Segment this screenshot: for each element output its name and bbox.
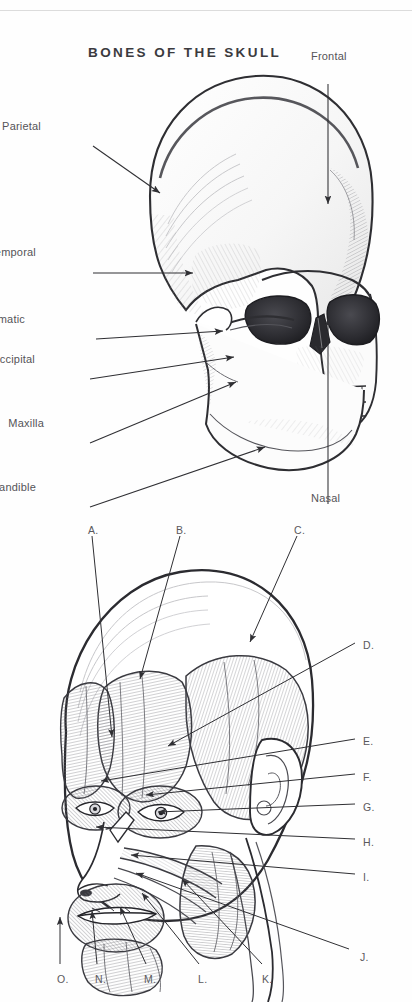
figure-bones-of-the-skull: BONES OF THE SKULL Frontal Parietal Temp… — [0, 18, 412, 518]
label-maxilla: Maxilla — [8, 417, 44, 429]
ear — [250, 739, 302, 835]
skull-illustration — [0, 18, 412, 518]
label-parietal: Parietal — [2, 120, 41, 132]
leader-parietal — [93, 146, 160, 193]
textbook-page: BONES OF THE SKULL Frontal Parietal Temp… — [0, 0, 412, 1002]
key-label-d: D. — [363, 639, 374, 651]
key-label-o: O. — [57, 973, 69, 985]
key-label-i: I. — [363, 871, 369, 883]
key-label-c: C. — [294, 524, 305, 536]
label-occipital: Occipital — [0, 353, 35, 365]
figure-title: BONES OF THE SKULL — [88, 45, 281, 60]
key-label-e: E. — [363, 735, 374, 747]
key-label-a: A. — [88, 524, 99, 536]
key-label-h: H. — [363, 836, 374, 848]
leader-mandible — [90, 447, 265, 507]
key-label-b: B. — [176, 524, 187, 536]
page-top-rule — [0, 10, 412, 11]
figure-facial-muscles: A. B. C. D. E. F. G. H. I. J. K. L. M. N… — [0, 512, 412, 1002]
key-label-j: J. — [360, 951, 369, 963]
label-frontal: Frontal — [311, 50, 347, 62]
key-label-f: F. — [363, 771, 372, 783]
muscle-depressors-and-mentalis — [82, 939, 163, 995]
label-mandible: Mandible — [0, 481, 36, 493]
key-label-m: M. — [144, 973, 156, 985]
label-zygomatic: Zygomatic — [0, 313, 25, 325]
key-label-l: L. — [198, 973, 207, 985]
facial-muscle-illustration — [0, 512, 412, 1002]
key-label-g: G. — [363, 801, 375, 813]
label-temporal: Temporal — [0, 246, 36, 258]
label-nasal: Nasal — [311, 492, 340, 504]
key-label-n: N. — [95, 973, 106, 985]
key-label-k: K. — [262, 973, 273, 985]
